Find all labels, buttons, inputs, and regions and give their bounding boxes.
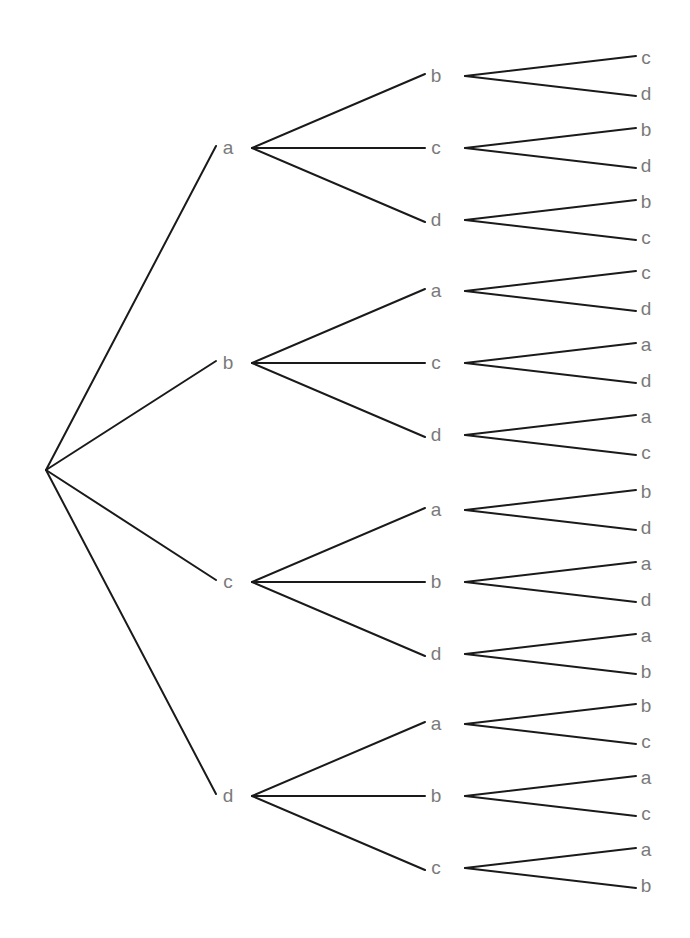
edge-level2-to-leaf [465,435,636,455]
leaf-node-label: d [641,299,652,318]
edge-level2-to-leaf [465,490,636,510]
level2-node-label: c [431,138,441,157]
edge-level2-to-leaf [465,868,636,888]
edge-level1-to-level2 [252,289,425,363]
leaf-node-label: d [641,590,652,609]
level2-node-label: c [431,858,441,877]
edge-level2-to-leaf [465,148,636,168]
edge-level2-to-leaf [465,562,636,582]
leaf-node-label: d [641,518,652,537]
leaf-node-label: b [641,120,652,139]
edge-root-to-level1 [46,470,216,580]
level1-node-label: c [223,572,233,591]
level2-node-label: a [431,500,442,519]
level2-node-label: d [431,644,442,663]
leaf-node-label: a [641,407,652,426]
leaf-node-label: b [641,192,652,211]
edge-level1-to-level2 [252,508,425,582]
leaf-node-label: c [641,228,651,247]
edge-level1-to-level2 [252,582,425,656]
level2-node-label: b [431,66,442,85]
level1-node-label: a [223,138,234,157]
edge-level2-to-leaf [465,220,636,240]
edge-level2-to-leaf [465,704,636,724]
leaf-node-label: d [641,371,652,390]
edge-level1-to-level2 [252,363,425,437]
edge-level2-to-leaf [465,76,636,96]
level2-node-label: d [431,425,442,444]
edge-root-to-level1 [46,146,216,470]
edge-root-to-level1 [46,470,216,794]
edge-level2-to-leaf [465,128,636,148]
edge-level2-to-leaf [465,343,636,363]
leaf-node-label: a [641,840,652,859]
edge-root-to-level1 [46,361,216,470]
leaf-node-label: d [641,156,652,175]
leaf-node-label: c [641,732,651,751]
edge-level2-to-leaf [465,724,636,744]
leaf-node-label: b [641,876,652,895]
edge-level2-to-leaf [465,200,636,220]
level1-node-label: d [223,786,234,805]
edge-level2-to-leaf [465,654,636,674]
edge-level2-to-leaf [465,415,636,435]
edge-level2-to-leaf [465,56,636,76]
edge-level2-to-leaf [465,582,636,602]
level2-node-label: b [431,572,442,591]
level2-node-label: b [431,786,442,805]
leaf-node-label: a [641,626,652,645]
edge-level2-to-leaf [465,510,636,530]
leaf-node-label: a [641,335,652,354]
level1-node-label: b [223,353,234,372]
leaf-node-label: d [641,84,652,103]
leaf-node-label: c [641,443,651,462]
leaf-node-label: a [641,554,652,573]
leaf-node-label: c [641,804,651,823]
edge-level2-to-leaf [465,363,636,383]
edge-level1-to-level2 [252,796,425,870]
edge-level1-to-level2 [252,74,425,148]
leaf-node-label: c [641,48,651,67]
edge-level2-to-leaf [465,776,636,796]
edge-level1-to-level2 [252,148,425,222]
edge-level1-to-level2 [252,722,425,796]
edge-level2-to-leaf [465,848,636,868]
leaf-node-label: a [641,768,652,787]
leaf-node-label: c [641,263,651,282]
edge-level2-to-leaf [465,271,636,291]
leaf-node-label: b [641,482,652,501]
leaf-node-label: b [641,696,652,715]
level2-node-label: d [431,210,442,229]
level2-node-label: a [431,714,442,733]
tree-diagram [0,0,690,938]
leaf-node-label: b [641,662,652,681]
edge-level2-to-leaf [465,291,636,311]
edge-level2-to-leaf [465,634,636,654]
level2-node-label: a [431,281,442,300]
level2-node-label: c [431,353,441,372]
edge-level2-to-leaf [465,796,636,816]
